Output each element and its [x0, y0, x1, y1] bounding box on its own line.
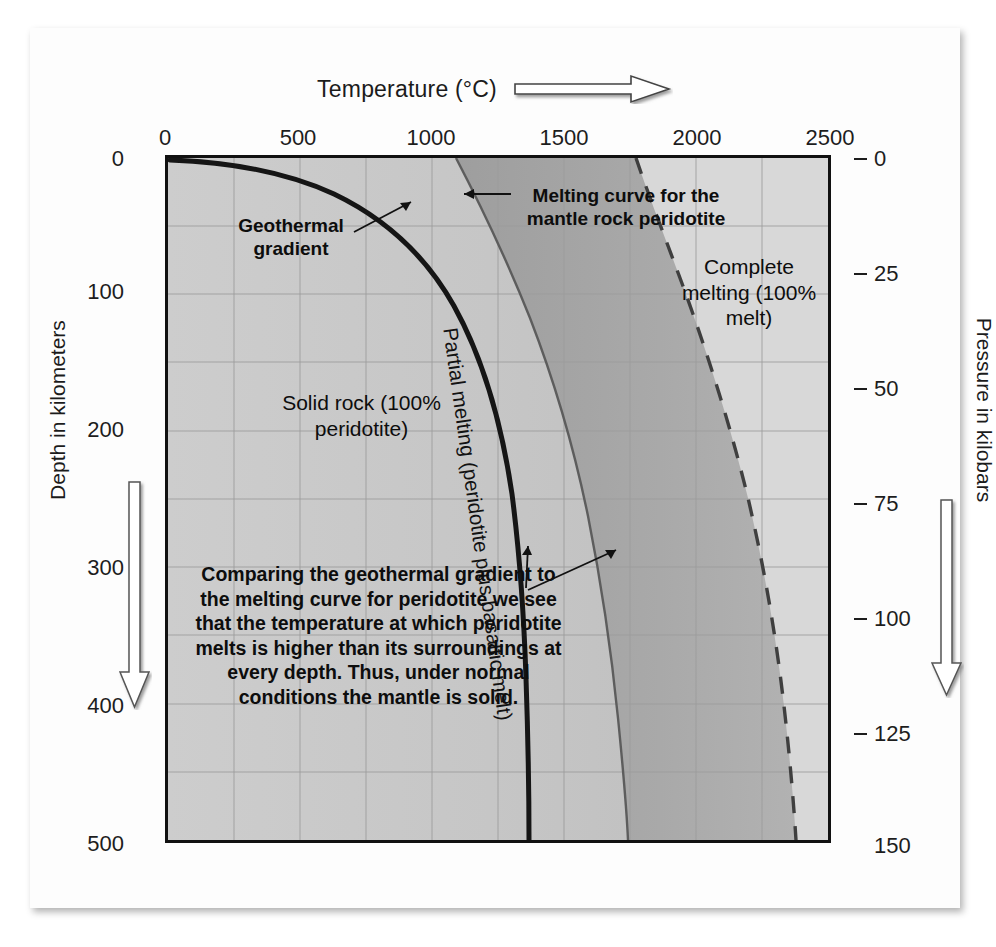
- temperature-direction-arrow-icon: [513, 74, 673, 104]
- tick-dash-icon: [854, 503, 867, 505]
- melting-curve-label: Melting curve for the mantle rock perido…: [516, 184, 736, 230]
- explanatory-paragraph: Comparing the geothermal gradient to the…: [186, 562, 571, 709]
- tick-dash-icon: [854, 618, 867, 620]
- xtick-0: 0: [159, 125, 171, 151]
- ytick-pressure-75: 75: [854, 491, 898, 517]
- depth-direction-arrow-icon: [118, 480, 152, 710]
- xtick-1500: 1500: [540, 125, 589, 151]
- ytick-pressure-0: 0: [854, 146, 886, 172]
- tick-dash-icon: [854, 733, 867, 735]
- xtick-2000: 2000: [673, 125, 722, 151]
- ytick-pressure-100: 100: [854, 606, 911, 632]
- xtick-1000: 1000: [407, 125, 456, 151]
- ytick-pressure-150: 150: [874, 833, 911, 859]
- ytick-pressure-50: 50: [854, 376, 898, 402]
- depth-axis-title: Depth in kilometers: [46, 320, 70, 500]
- ytick-depth-100: 100: [87, 279, 124, 305]
- ytick-depth-500: 500: [87, 831, 124, 857]
- tick-dash-icon: [854, 273, 867, 275]
- geothermal-gradient-label: Geothermal gradient: [203, 214, 379, 260]
- temperature-axis-title: Temperature (°C): [317, 76, 497, 103]
- xtick-2500: 2500: [806, 125, 855, 151]
- pressure-direction-arrow-icon: [930, 498, 964, 698]
- plot-area: Geothermal gradient Melting curve for th…: [165, 155, 831, 843]
- pressure-axis-title: Pressure in kilobars: [972, 318, 996, 502]
- complete-melting-label: Complete melting (100% melt): [673, 254, 825, 331]
- ytick-pressure-125: 125: [854, 721, 911, 747]
- xtick-500: 500: [280, 125, 317, 151]
- ytick-pressure-25: 25: [854, 261, 898, 287]
- ytick-depth-0: 0: [112, 146, 124, 172]
- tick-dash-icon: [854, 388, 867, 390]
- top-axis-title-row: Temperature (°C): [30, 72, 960, 106]
- figure-panel: Temperature (°C) 0 500 1000 1500 2000 25…: [30, 28, 960, 908]
- ytick-depth-200: 200: [87, 417, 124, 443]
- tick-dash-icon: [854, 158, 867, 160]
